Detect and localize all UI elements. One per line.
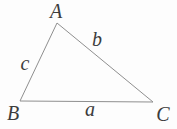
triangle-figure: A B C a b c [0,0,177,129]
side-label-b-right: b [92,28,102,50]
side-label-c-left: c [21,52,30,74]
triangle-shape [20,23,153,102]
vertex-label-c-bottom-right: C [156,103,170,125]
triangle-diagram: A B C a b c [0,0,177,129]
vertex-label-a-top: A [48,0,63,22]
side-label-a-bottom: a [85,98,95,120]
vertex-label-b-bottom-left: B [7,102,19,124]
